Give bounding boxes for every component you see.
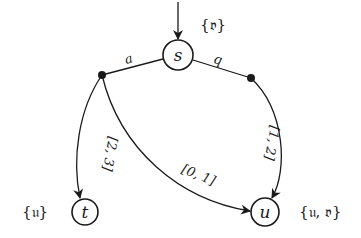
interval-label-a-t: [2, 3] (100, 135, 121, 173)
node-s-label: s (174, 45, 183, 65)
node-t-label: t (82, 202, 89, 222)
edge-a-u (102, 75, 250, 211)
node-u-set-label: {𝔲, 𝔳} (299, 203, 342, 221)
action-dot-a (98, 71, 106, 79)
node-s: s (163, 40, 193, 70)
action-label-a: a (123, 50, 134, 66)
interval-label-a-u: [0, 1] (180, 161, 219, 188)
node-s-set-label: {𝔳} (200, 16, 226, 34)
edge-a-t (77, 75, 102, 198)
node-u-label: u (260, 202, 271, 222)
node-t-set-label: {𝔲} (22, 203, 48, 221)
node-u: u (251, 198, 279, 226)
diagram-canvas: a b [2, 3] [0, 1] [1, 2] s {𝔳} t {𝔲} u {… (0, 0, 361, 238)
action-label-b: b (211, 53, 223, 70)
action-dot-b (247, 74, 255, 82)
node-t: t (72, 199, 98, 225)
interval-label-b-u: [1, 2] (262, 125, 283, 163)
